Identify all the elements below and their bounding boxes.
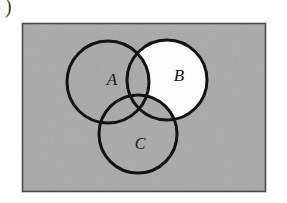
figure-canvas: A B C ) xyxy=(0,0,287,203)
set-label-c: C xyxy=(135,135,146,152)
set-label-a: A xyxy=(106,70,118,89)
figure-caption-fragment: ) xyxy=(5,0,12,18)
set-label-b: B xyxy=(174,66,185,85)
venn-diagram: A B C ) xyxy=(0,0,287,203)
